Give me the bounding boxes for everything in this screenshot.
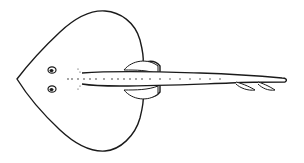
- skate-drawing: [0, 0, 304, 163]
- dorsal-fin-1: [236, 82, 255, 90]
- dorsal-fin-2: [258, 82, 275, 90]
- skate-illustration: [0, 0, 304, 163]
